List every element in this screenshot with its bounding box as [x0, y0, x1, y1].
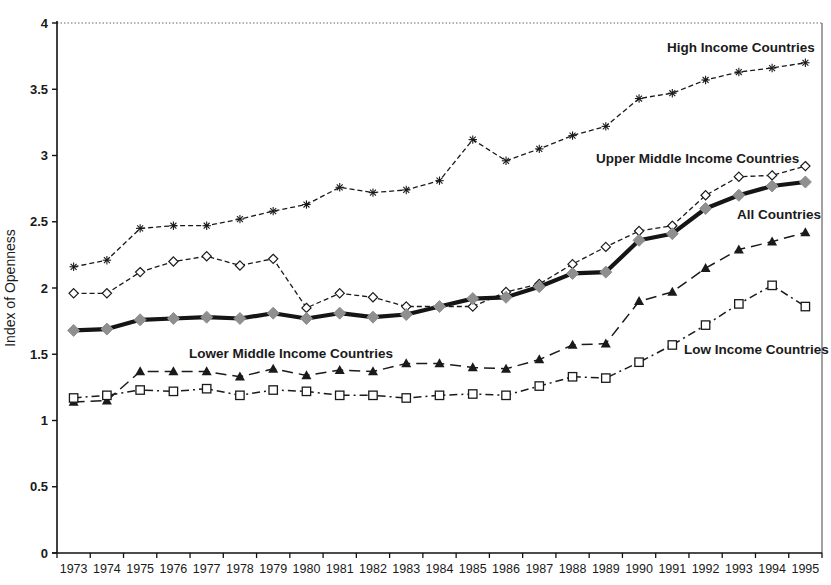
- filled-diamond-marker: [533, 281, 545, 293]
- open-diamond-marker: [601, 242, 610, 251]
- asterisk-marker: [336, 183, 344, 191]
- filled-diamond-marker: [167, 312, 179, 324]
- open-square-marker: [69, 394, 77, 402]
- filled-triangle-marker: [568, 340, 578, 349]
- filled-diamond-marker: [300, 312, 312, 324]
- open-diamond-marker: [102, 289, 111, 298]
- open-square-marker: [635, 358, 643, 366]
- filled-diamond-marker: [201, 311, 213, 323]
- x-tick-label: 1978: [226, 562, 254, 576]
- open-square-marker: [701, 321, 709, 329]
- filled-diamond-marker: [267, 307, 279, 319]
- y-tick-label: 3: [41, 148, 48, 163]
- y-tick-label: 0.5: [30, 479, 48, 494]
- open-square-marker: [435, 391, 443, 399]
- open-square-marker: [169, 387, 177, 395]
- filled-diamond-marker: [467, 293, 479, 305]
- open-square-marker: [668, 341, 676, 349]
- open-square-marker: [801, 302, 809, 310]
- open-diamond-marker: [169, 257, 178, 266]
- filled-diamond-marker: [434, 301, 446, 313]
- filled-triangle-marker: [634, 296, 644, 305]
- open-square-marker: [602, 374, 610, 382]
- series-label-all-countries: All Countries: [737, 207, 821, 222]
- x-tick-label: 1992: [692, 562, 720, 576]
- filled-triangle-marker: [800, 227, 810, 236]
- series-line: [74, 166, 806, 308]
- filled-diamond-marker: [134, 314, 146, 326]
- y-tick-label: 4: [41, 16, 49, 31]
- asterisk-marker: [801, 59, 809, 67]
- asterisk-marker: [103, 256, 111, 264]
- open-diamond-marker: [202, 252, 211, 261]
- open-diamond-marker: [801, 162, 810, 171]
- y-tick-label: 1: [41, 413, 48, 428]
- x-tick-label: 1987: [525, 562, 553, 576]
- x-tick-label: 1973: [60, 562, 88, 576]
- asterisk-marker: [302, 200, 310, 208]
- x-tick-label: 1980: [293, 562, 321, 576]
- filled-diamond-marker: [101, 323, 113, 335]
- chart-canvas: 00.511.522.533.5419731974197519761977197…: [0, 0, 831, 585]
- filled-diamond-marker: [68, 324, 80, 336]
- open-square-marker: [768, 281, 776, 289]
- filled-triangle-marker: [667, 287, 677, 296]
- x-tick-label: 1994: [758, 562, 786, 576]
- series-labels: High Income CountriesUpper Middle Income…: [189, 40, 829, 361]
- filled-diamond-marker: [234, 312, 246, 324]
- y-tick-label: 0: [41, 546, 48, 561]
- open-square-marker: [236, 391, 244, 399]
- open-square-marker: [336, 391, 344, 399]
- x-tick-label: 1982: [359, 562, 387, 576]
- open-square-marker: [535, 382, 543, 390]
- open-square-marker: [103, 391, 111, 399]
- open-diamond-marker: [235, 261, 244, 270]
- x-tick-label: 1986: [492, 562, 520, 576]
- open-square-marker: [302, 387, 310, 395]
- open-square-marker: [202, 385, 210, 393]
- asterisk-marker: [768, 64, 776, 72]
- asterisk-marker: [701, 76, 709, 84]
- open-diamond-marker: [368, 293, 377, 302]
- asterisk-marker: [202, 222, 210, 230]
- x-tick-label: 1988: [559, 562, 587, 576]
- open-diamond-marker: [335, 289, 344, 298]
- filled-diamond-marker: [367, 311, 379, 323]
- asterisk-marker: [535, 145, 543, 153]
- open-diamond-marker: [734, 172, 743, 181]
- filled-triangle-marker: [268, 364, 278, 373]
- y-axis-title: Index of Openness: [2, 229, 18, 347]
- filled-diamond-marker: [733, 189, 745, 201]
- y-axis: 00.511.522.533.54: [30, 16, 57, 561]
- asterisk-marker: [435, 176, 443, 184]
- openness-line-chart: 00.511.522.533.5419731974197519761977197…: [0, 0, 831, 585]
- open-square-marker: [735, 300, 743, 308]
- open-square-marker: [136, 386, 144, 394]
- asterisk-marker: [136, 224, 144, 232]
- open-square-marker: [369, 391, 377, 399]
- x-tick-label: 1984: [426, 562, 454, 576]
- x-tick-label: 1983: [392, 562, 420, 576]
- open-diamond-marker: [768, 171, 777, 180]
- filled-diamond-marker: [799, 176, 811, 188]
- x-tick-label: 1990: [625, 562, 653, 576]
- open-diamond-marker: [136, 268, 145, 277]
- series-label-high-income-countries: High Income Countries: [667, 40, 815, 55]
- open-square-marker: [502, 391, 510, 399]
- open-diamond-marker: [269, 254, 278, 263]
- asterisk-marker: [269, 207, 277, 215]
- asterisk-marker: [502, 157, 510, 165]
- axes: [52, 21, 822, 553]
- asterisk-marker: [668, 89, 676, 97]
- x-tick-label: 1974: [93, 562, 121, 576]
- asterisk-marker: [602, 122, 610, 130]
- series-label-upper-middle-income-countries: Upper Middle Income Countries: [596, 151, 799, 166]
- x-tick-label: 1981: [326, 562, 354, 576]
- open-square-marker: [269, 386, 277, 394]
- asterisk-marker: [635, 94, 643, 102]
- asterisk-marker: [735, 68, 743, 76]
- y-tick-label: 1.5: [30, 347, 48, 362]
- series-label-lower-middle-income-countries: Lower Middle Income Countries: [189, 346, 393, 361]
- filled-triangle-marker: [701, 263, 711, 272]
- y-tick-label: 2.5: [30, 214, 48, 229]
